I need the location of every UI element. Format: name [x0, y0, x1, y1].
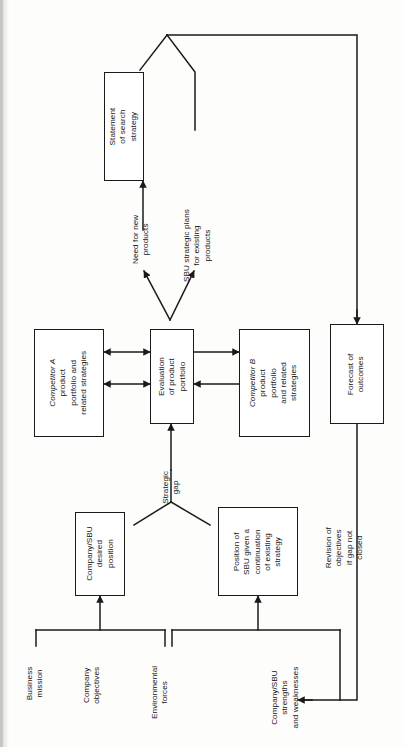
node-forecast-of-outcomes[interactable]: Forecast ofoutcomes [330, 324, 384, 424]
label-revision-of-objectives-text: Revision ofobjectivesif gap notclosed [324, 527, 365, 568]
node-company-sbu-desired-position[interactable]: Company/SBUdesiredposition [75, 512, 125, 596]
label-company-objectives-text: Companyobjectives [82, 667, 103, 704]
node-competitor-b-label: Competitor Bproductportfolioand relateds… [249, 359, 301, 407]
label-need-for-new-products-text: Need for newproducts [132, 214, 153, 263]
node-position-of-sbu-label: Position ofSBU given acontinuationof exi… [232, 528, 284, 574]
label-sbu-strategic-plans-text: SBU strategic plansfor existingproducts [181, 210, 212, 283]
node-competitor-a[interactable]: Competitor Aproductportfolio andrelated … [34, 329, 104, 437]
label-environmental-forces-text: Environmentalforces [151, 665, 172, 718]
node-evaluation-of-product-portfolio[interactable]: Evaluationof productportfolio [150, 329, 194, 424]
label-revision-of-objectives: Revision ofobjectivesif gap notclosed [318, 505, 372, 591]
edge-statement-to-merge [140, 35, 167, 70]
edge-sbu-plans-to-merge [167, 35, 195, 130]
node-position-of-sbu[interactable]: Position ofSBU given acontinuationof exi… [218, 507, 298, 596]
label-environmental-forces: Environmentalforces [145, 650, 177, 734]
node-evaluation-label: Evaluationof productportfolio [156, 357, 187, 396]
node-forecast-label: Forecast ofoutcomes [347, 353, 368, 395]
label-sbu-strategic-plans: SBU strategic plansfor existingproducts [168, 196, 226, 296]
node-desired-position-label: Company/SBUdesiredposition [84, 527, 115, 582]
node-statement-of-search-strategy[interactable]: Statementof searchstrategy [104, 72, 144, 181]
label-strategic-gap: Strategicgap [150, 455, 192, 519]
label-business-mission: Businessmission [22, 650, 50, 716]
label-need-for-new-products: Need for newproducts [120, 200, 164, 278]
label-business-mission-text: Businessmission [26, 666, 47, 700]
label-company-objectives: Companyobjectives [77, 650, 107, 720]
label-company-sbu-strengths: Company/SBUstrengthsand weaknesses [264, 650, 308, 746]
label-strategic-gap-text: Strategicgap [161, 471, 182, 504]
label-company-sbu-strengths-text: Company/SBUstrengthsand weaknesses [270, 667, 301, 729]
edge-eval-to-need-new [144, 271, 170, 320]
node-competitor-a-label: Competitor Aproductportfolio andrelated … [48, 351, 89, 415]
diagram-canvas: Evaluation : two double-headed horizonta… [0, 0, 405, 747]
node-statement-label: Statementof searchstrategy [108, 108, 139, 146]
node-competitor-b[interactable]: Competitor Bproductportfolioand relateds… [239, 329, 310, 437]
